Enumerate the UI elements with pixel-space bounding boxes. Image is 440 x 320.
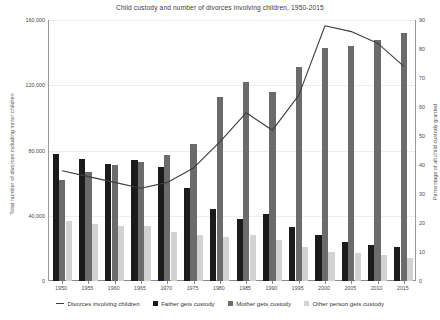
x-tick-label: 1975 xyxy=(187,285,199,291)
y2-tick-label: 60 xyxy=(419,104,425,110)
x-tickmark xyxy=(325,281,326,284)
chart-title: Child custody and number of divorces inv… xyxy=(0,4,440,11)
x-tickmark xyxy=(167,281,168,284)
y2-tick-label: 30 xyxy=(419,191,425,197)
x-tickmark xyxy=(88,281,89,284)
y-tick-label: 0 xyxy=(42,278,45,284)
divorces-line-path xyxy=(62,26,404,188)
x-tick-label: 1995 xyxy=(292,285,304,291)
y2-tick-label: 10 xyxy=(419,249,425,255)
x-tick-label: 1970 xyxy=(160,285,172,291)
plot-area: 040,00080,000120,000160,000 010203040506… xyxy=(48,20,416,281)
x-tick-label: 1960 xyxy=(108,285,120,291)
x-tickmark xyxy=(62,281,63,284)
x-tick-label: 1985 xyxy=(239,285,251,291)
chart-legend: Divorces involving childrenFather gets c… xyxy=(0,300,440,307)
x-tickmark xyxy=(351,281,352,284)
y-tick-label: 80,000 xyxy=(29,148,46,154)
y2-tick-label: 50 xyxy=(419,133,425,139)
legend-label: Divorces involving children xyxy=(67,300,139,307)
legend-label: Father gets custody xyxy=(161,300,215,307)
x-tick-label: 1955 xyxy=(82,285,94,291)
y2-tick-label: 80 xyxy=(419,46,425,52)
legend-item-line[interactable]: Divorces involving children xyxy=(56,300,140,307)
y-tick-label: 40,000 xyxy=(29,213,46,219)
x-tickmark xyxy=(272,281,273,284)
y2-tick-label: 0 xyxy=(419,278,422,284)
legend-label: Mother gets custody xyxy=(236,300,291,307)
x-tickmark xyxy=(299,281,300,284)
x-tick-label: 2005 xyxy=(344,285,356,291)
x-tick-label: 1950 xyxy=(55,285,67,291)
y2-tick-label: 40 xyxy=(419,162,425,168)
legend-item-mother[interactable]: Mother gets custody xyxy=(228,300,291,307)
y2-tick-label: 20 xyxy=(419,220,425,226)
legend-swatch-line-icon xyxy=(56,303,64,304)
x-tick-label: 1980 xyxy=(213,285,225,291)
x-tick-label: 1990 xyxy=(266,285,278,291)
x-tickmark xyxy=(378,281,379,284)
y-tick-label: 120,000 xyxy=(26,82,46,88)
y2-tick-label: 70 xyxy=(419,75,425,81)
y2-tick-label: 90 xyxy=(419,17,425,23)
x-tick-label: 2000 xyxy=(318,285,330,291)
x-tick-label: 2015 xyxy=(397,285,409,291)
legend-swatch-father-icon xyxy=(153,301,158,306)
x-tickmark xyxy=(194,281,195,284)
divorces-line-series xyxy=(49,20,417,281)
chart-figure: Child custody and number of divorces inv… xyxy=(0,0,440,320)
y-tick-label: 160,000 xyxy=(26,17,46,23)
x-tickmark xyxy=(141,281,142,284)
x-tickmark xyxy=(246,281,247,284)
x-tick-label: 1965 xyxy=(134,285,146,291)
x-tickmark xyxy=(115,281,116,284)
legend-item-other[interactable]: Other person gets custody xyxy=(304,300,384,307)
legend-label: Other person gets custody xyxy=(313,300,384,307)
legend-swatch-other-icon xyxy=(304,301,309,306)
legend-swatch-mother-icon xyxy=(228,301,233,306)
y2-axis-title: Percentage of all child custody granted xyxy=(432,42,438,262)
x-tickmark xyxy=(404,281,405,284)
x-tickmark xyxy=(220,281,221,284)
y-axis-title: Total number of divorces including minor… xyxy=(9,44,15,264)
legend-item-father[interactable]: Father gets custody xyxy=(153,300,215,307)
x-tick-label: 2010 xyxy=(371,285,383,291)
